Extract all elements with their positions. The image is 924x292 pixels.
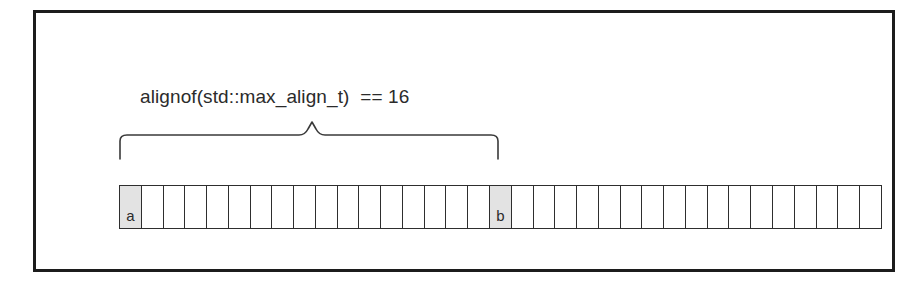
- memory-cell: [686, 186, 708, 228]
- memory-cell: [338, 186, 360, 228]
- memory-cell: [512, 186, 534, 228]
- memory-cell: [664, 186, 686, 228]
- memory-cell: [207, 186, 229, 228]
- alignment-annotation-label: alignof(std::max_align_t) == 16: [140, 85, 409, 109]
- memory-cell: [229, 186, 251, 228]
- memory-cell: [599, 186, 621, 228]
- memory-cell: [838, 186, 860, 228]
- memory-cell: [251, 186, 273, 228]
- memory-cell: [534, 186, 556, 228]
- memory-cell: [621, 186, 643, 228]
- memory-cell-label: b: [490, 208, 511, 223]
- memory-cell: [272, 186, 294, 228]
- memory-cell-b: b: [490, 186, 512, 228]
- memory-cell-strip: ab: [119, 185, 882, 229]
- memory-cell: [164, 186, 186, 228]
- memory-cell: [294, 186, 316, 228]
- memory-cell: [381, 186, 403, 228]
- memory-cell: [425, 186, 447, 228]
- figure-frame: alignof(std::max_align_t) == 16 ab: [33, 10, 895, 272]
- memory-cell-label: a: [120, 208, 141, 223]
- curly-brace-icon: [116, 117, 506, 161]
- memory-cell: [359, 186, 381, 228]
- memory-cell: [316, 186, 338, 228]
- memory-cell: [403, 186, 425, 228]
- memory-cell: [708, 186, 730, 228]
- memory-cell: [142, 186, 164, 228]
- memory-cell: [185, 186, 207, 228]
- memory-cell: [860, 186, 882, 228]
- memory-cell: [468, 186, 490, 228]
- memory-cell: [795, 186, 817, 228]
- range-brace: [116, 117, 506, 161]
- memory-cell: [446, 186, 468, 228]
- memory-cell: [751, 186, 773, 228]
- memory-cell: [577, 186, 599, 228]
- memory-cell-a: a: [120, 186, 142, 228]
- memory-cell: [773, 186, 795, 228]
- memory-cell: [642, 186, 664, 228]
- memory-cell: [817, 186, 839, 228]
- memory-cell: [555, 186, 577, 228]
- memory-cell: [729, 186, 751, 228]
